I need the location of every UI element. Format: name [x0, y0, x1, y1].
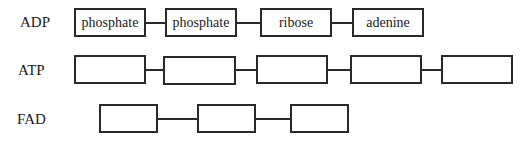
fad-connector-1 [158, 118, 197, 120]
atp-connector-3 [328, 69, 350, 71]
adp-box-ribose: ribose [260, 8, 332, 37]
atp-connector-4 [422, 69, 441, 71]
fad-box-3 [290, 104, 349, 133]
atp-connector-1 [146, 69, 163, 71]
atp-box-5 [441, 55, 513, 84]
atp-box-2 [163, 56, 236, 85]
adp-connector-3 [332, 22, 352, 24]
adp-box-phosphate-2: phosphate [165, 8, 237, 37]
row-label-fad: FAD [17, 110, 46, 128]
adp-connector-2 [237, 22, 260, 24]
fad-box-1 [99, 104, 158, 133]
atp-box-4 [350, 55, 422, 84]
atp-box-3 [256, 55, 328, 84]
fad-connector-2 [256, 118, 290, 120]
atp-connector-2 [236, 69, 256, 71]
fad-box-2 [197, 104, 256, 133]
row-label-atp: ATP [18, 61, 45, 79]
row-label-adp: ADP [20, 13, 50, 31]
atp-box-1 [74, 55, 146, 84]
adp-box-phosphate-1: phosphate [74, 8, 146, 37]
adp-box-adenine: adenine [352, 8, 424, 37]
adp-connector-1 [146, 22, 165, 24]
